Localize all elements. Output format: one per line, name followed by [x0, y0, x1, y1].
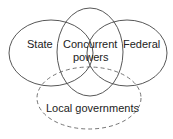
local-governments-label: Local governments [46, 102, 139, 114]
federal-label: Federal [123, 38, 160, 50]
venn-diagram: State Concurrent powers Federal Local go… [0, 0, 173, 139]
state-label: State [27, 38, 53, 50]
concurrent-label-line1: Concurrent [63, 38, 117, 50]
local-governments-ellipse [37, 67, 141, 129]
concurrent-label-line2: powers [73, 51, 109, 63]
